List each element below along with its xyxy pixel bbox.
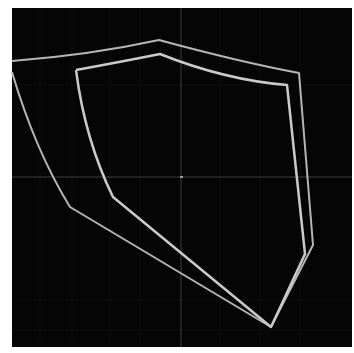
- center-mark: [180, 176, 183, 178]
- image-frame: [0, 0, 354, 353]
- shield-outline-drawing: [0, 0, 354, 353]
